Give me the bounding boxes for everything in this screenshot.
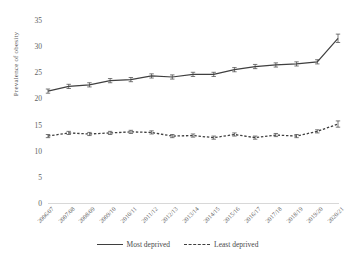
x-tick-label: 2016/17 xyxy=(237,205,262,230)
legend-label: Least deprived xyxy=(214,240,258,249)
x-tick-label: 2017/18 xyxy=(258,205,283,230)
legend-swatch-icon xyxy=(184,244,210,245)
obesity-prevalence-line-chart: Prevalence of obesity 05101520253035 200… xyxy=(0,0,355,260)
x-tick-label: 2010/11 xyxy=(113,205,138,230)
legend-label: Most deprived xyxy=(127,240,171,249)
x-tick-label: 2013/14 xyxy=(175,205,200,230)
x-tick-label: 2009/10 xyxy=(92,205,117,230)
legend-entry[interactable]: Least deprived xyxy=(184,240,258,249)
chart-legend: Most deprivedLeast deprived xyxy=(0,240,355,249)
legend-entry[interactable]: Most deprived xyxy=(97,240,171,249)
legend-swatch-icon xyxy=(97,244,123,245)
series-least-deprived xyxy=(46,121,340,139)
series-line xyxy=(48,38,338,91)
series-most-deprived xyxy=(46,34,340,93)
